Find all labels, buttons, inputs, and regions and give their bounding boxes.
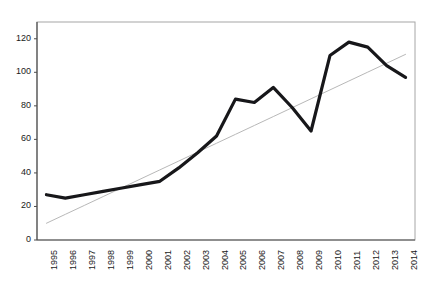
x-axis-tick-label: 2005 bbox=[239, 250, 248, 270]
x-axis-tick-label: 2003 bbox=[202, 250, 211, 270]
x-axis-tick-label: 2007 bbox=[277, 250, 286, 270]
x-axis-tick-label: 2012 bbox=[372, 250, 381, 270]
y-axis-tick-label: 120 bbox=[5, 34, 31, 43]
x-axis-tick-label: 1999 bbox=[126, 250, 135, 270]
chart-canvas bbox=[0, 0, 430, 285]
x-axis-tick-label: 2011 bbox=[353, 251, 362, 270]
y-axis-tick-label: 60 bbox=[5, 134, 31, 143]
y-axis-tick-label: 20 bbox=[5, 201, 31, 210]
x-axis-tick-label: 2000 bbox=[145, 250, 154, 270]
x-axis-tick-label: 2010 bbox=[334, 250, 343, 270]
y-axis-tick-label: 0 bbox=[5, 235, 31, 244]
x-axis-tick-label: 2014 bbox=[410, 250, 419, 270]
x-axis-tick-label: 2002 bbox=[183, 250, 192, 270]
x-axis-tick-label: 2013 bbox=[391, 250, 400, 270]
x-axis-tick-label: 1996 bbox=[69, 250, 78, 270]
x-axis-tick-label: 2004 bbox=[221, 250, 230, 270]
x-axis-tick-label: 1998 bbox=[107, 250, 116, 270]
x-axis-tick-label: 2001 bbox=[164, 250, 173, 270]
x-axis-tick-label: 2008 bbox=[296, 250, 305, 270]
y-axis-tick-label: 80 bbox=[5, 101, 31, 110]
chart-background bbox=[0, 0, 430, 285]
line-chart: 020406080100120 199519961997199819992000… bbox=[0, 0, 430, 285]
x-axis-tick-label: 1995 bbox=[50, 250, 59, 270]
x-axis-tick-label: 2006 bbox=[258, 250, 267, 270]
y-axis-tick-label: 40 bbox=[5, 168, 31, 177]
y-axis-tick-label: 100 bbox=[5, 67, 31, 76]
x-axis-tick-label: 1997 bbox=[88, 250, 97, 270]
x-axis-tick-label: 2009 bbox=[315, 250, 324, 270]
